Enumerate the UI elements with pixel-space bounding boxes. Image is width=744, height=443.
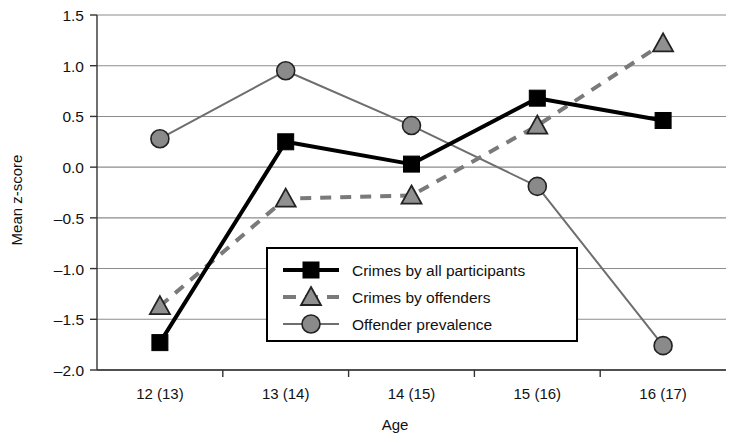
- legend-label: Offender prevalence: [352, 316, 492, 333]
- x-tick-label: 16 (17): [639, 385, 687, 402]
- x-tick-label: 14 (15): [388, 385, 436, 402]
- legend-label: Crimes by offenders: [352, 289, 491, 306]
- y-tick-label: –0.5: [54, 210, 84, 227]
- circle-marker: [151, 130, 169, 148]
- y-axis-ticks: [90, 15, 97, 370]
- y-tick-label: –2.0: [54, 362, 85, 379]
- legend-label: Crimes by all participants: [352, 262, 525, 279]
- y-tick-label: –1.5: [54, 311, 84, 328]
- x-tick-label: 13 (14): [262, 385, 310, 402]
- y-tick-label: –1.0: [54, 261, 85, 278]
- y-tick-label: 1.5: [62, 7, 84, 24]
- y-tick-labels: 1.51.00.50.0–0.5–1.0–1.5–2.0: [54, 7, 85, 379]
- circle-marker: [277, 62, 295, 80]
- square-marker: [278, 134, 294, 150]
- legend-item[interactable]: Crimes by all participants: [283, 262, 525, 279]
- y-tick-label: 0.5: [62, 108, 84, 125]
- x-tick-labels: 12 (13)13 (14)14 (15)15 (16)16 (17): [136, 385, 687, 402]
- square-marker: [404, 156, 420, 172]
- y-tick-label: 0.0: [62, 159, 84, 176]
- square-marker: [303, 262, 319, 278]
- x-axis-title: Age: [382, 416, 409, 433]
- square-marker: [655, 112, 671, 128]
- square-marker: [529, 90, 545, 106]
- triangle-marker: [653, 33, 673, 51]
- line-chart: 1.51.00.50.0–0.5–1.0–1.5–2.0 12 (13)13 (…: [0, 0, 744, 443]
- circle-marker: [302, 315, 320, 333]
- circle-marker: [528, 177, 546, 195]
- x-tick-label: 12 (13): [136, 385, 184, 402]
- circle-marker: [403, 117, 421, 135]
- circle-marker: [654, 337, 672, 355]
- x-axis-ticks: [223, 370, 600, 377]
- square-marker: [152, 335, 168, 351]
- legend-item[interactable]: Offender prevalence: [283, 315, 492, 333]
- y-axis-title: Mean z-score: [8, 155, 25, 246]
- y-tick-label: 1.0: [62, 58, 84, 75]
- triangle-marker: [527, 116, 547, 134]
- chart-canvas: 1.51.00.50.0–0.5–1.0–1.5–2.0 12 (13)13 (…: [0, 0, 744, 443]
- legend: Crimes by all participantsCrimes by offe…: [267, 248, 577, 341]
- triangle-marker: [276, 189, 296, 207]
- x-tick-label: 15 (16): [514, 385, 562, 402]
